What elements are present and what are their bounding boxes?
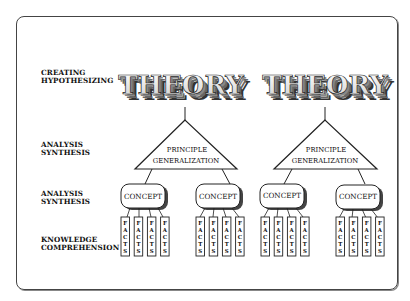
facts-letter: A	[350, 227, 356, 233]
facts-letter: C	[290, 234, 295, 240]
facts-letter: A	[275, 227, 281, 233]
facts-letter: A	[135, 227, 141, 233]
facts-letter: F	[365, 220, 369, 226]
facts-box: FACTS	[121, 217, 130, 256]
facts-letter: T	[365, 241, 369, 247]
facts-letter: T	[338, 241, 342, 247]
concept-label: CONCEPT	[339, 192, 377, 201]
theory-title: THEORY	[118, 70, 244, 100]
facts-letter: C	[225, 234, 230, 240]
facts-letter: C	[163, 234, 168, 240]
facts-letter: S	[123, 248, 127, 254]
theory-word: THEORY THEORY THEORY THEORY	[118, 70, 250, 106]
facts-letter: A	[302, 227, 308, 233]
facts-letter: S	[303, 248, 307, 254]
facts-letter: C	[263, 234, 268, 240]
facts-letter: S	[263, 248, 267, 254]
facts-letter: S	[276, 248, 280, 254]
facts-letter: A	[364, 227, 370, 233]
facts-letter: A	[210, 227, 216, 233]
facts-letter: A	[162, 227, 168, 233]
facts-letter: T	[123, 241, 127, 247]
concept-label: CONCEPT	[263, 191, 301, 200]
facts-letter: F	[163, 220, 167, 226]
facts-letter: F	[378, 220, 382, 226]
facts-box: FACTS	[376, 217, 385, 256]
facts-letter: A	[289, 227, 295, 233]
theory-tree-1: THEORY THEORY THEORY THEORY PRINCIPLE GE…	[118, 70, 250, 217]
facts-letter: F	[277, 220, 281, 226]
facts-letter: T	[238, 241, 242, 247]
facts-letter: A	[122, 227, 128, 233]
facts-letter: T	[378, 241, 382, 247]
facts-letter: T	[290, 241, 294, 247]
facts-letter: T	[163, 241, 167, 247]
generalization-label: GENERALIZATION	[153, 157, 220, 165]
facts-letter: C	[211, 234, 216, 240]
facts-letter: S	[351, 248, 355, 254]
concept-node: CONCEPT	[260, 184, 307, 217]
facts-letter: F	[123, 220, 127, 226]
facts-letter: S	[198, 248, 202, 254]
facts-layer: FACTSFACTSFACTSFACTSFACTSFACTSFACTSFACTS…	[121, 217, 384, 256]
facts-letter: A	[149, 227, 155, 233]
facts-box: FACTS	[196, 217, 205, 256]
facts-letter: A	[377, 227, 383, 233]
facts-letter: C	[276, 234, 281, 240]
facts-box: FACTS	[161, 217, 170, 256]
concept-node: CONCEPT	[336, 185, 383, 218]
facts-box: FACTS	[209, 217, 218, 256]
facts-letter: F	[225, 220, 229, 226]
facts-letter: A	[224, 227, 230, 233]
facts-letter: S	[136, 248, 140, 254]
facts-letter: T	[276, 241, 280, 247]
facts-box: FACTS	[287, 217, 296, 256]
facts-letter: C	[303, 234, 308, 240]
facts-letter: T	[351, 241, 355, 247]
facts-box: FACTS	[336, 217, 345, 256]
facts-box: FACTS	[274, 217, 283, 256]
generalization-label: GENERALIZATION	[292, 157, 359, 165]
facts-letter: C	[365, 234, 370, 240]
facts-letter: F	[150, 220, 154, 226]
facts-letter: C	[198, 234, 203, 240]
facts-letter: C	[238, 234, 243, 240]
facts-box: FACTS	[261, 217, 270, 256]
facts-letter: S	[211, 248, 215, 254]
facts-letter: C	[150, 234, 155, 240]
facts-box: FACTS	[222, 217, 231, 256]
facts-box: FACTS	[236, 217, 245, 256]
facts-box: FACTS	[362, 217, 371, 256]
facts-letter: C	[338, 234, 343, 240]
facts-box: FACTS	[134, 217, 143, 256]
facts-letter: T	[198, 241, 202, 247]
facts-letter: F	[303, 220, 307, 226]
facts-letter: S	[338, 248, 342, 254]
facts-letter: C	[351, 234, 356, 240]
theory-title: THEORY	[262, 70, 388, 100]
facts-letter: T	[225, 241, 229, 247]
facts-letter: F	[263, 220, 267, 226]
facts-letter: S	[378, 248, 382, 254]
facts-letter: C	[123, 234, 128, 240]
facts-letter: A	[237, 227, 243, 233]
facts-letter: A	[262, 227, 268, 233]
concept-node: CONCEPT	[121, 184, 168, 217]
hierarchy-diagram: THEORY THEORY THEORY THEORY PRINCIPLE GE…	[0, 0, 410, 301]
facts-letter: S	[238, 248, 242, 254]
facts-box: FACTS	[147, 217, 156, 256]
facts-box: FACTS	[349, 217, 358, 256]
concept-label: CONCEPT	[199, 192, 237, 201]
principle-label: PRINCIPLE	[306, 146, 346, 154]
facts-letter: S	[163, 248, 167, 254]
facts-box: FACTS	[301, 217, 310, 256]
facts-letter: F	[352, 220, 356, 226]
principle-label: PRINCIPLE	[167, 146, 207, 154]
facts-letter: F	[290, 220, 294, 226]
theory-tree-2: THEORY THEORY THEORY THEORY PRINCIPLE GE…	[260, 70, 394, 218]
facts-letter: S	[150, 248, 154, 254]
facts-letter: T	[303, 241, 307, 247]
facts-letter: F	[198, 220, 202, 226]
facts-letter: A	[337, 227, 343, 233]
facts-letter: T	[211, 241, 215, 247]
